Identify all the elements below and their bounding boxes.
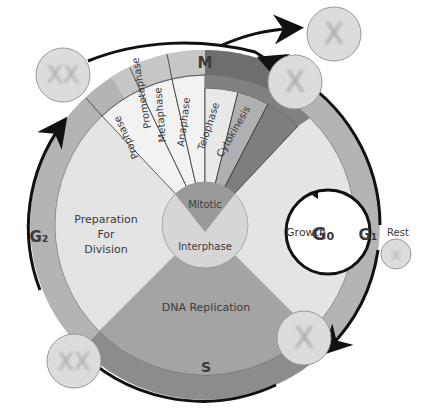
g1-sector-label: Growth xyxy=(286,226,326,239)
m-label: M xyxy=(198,54,213,72)
g2-sector-line1: Preparation xyxy=(74,213,138,226)
s-sector-label: DNA Replication xyxy=(162,301,251,314)
svg-text:X: X xyxy=(285,64,306,99)
svg-text:X: X xyxy=(324,16,345,51)
s-label: S xyxy=(201,359,211,375)
cell-cycle-diagram: XX X X X X XX M G₁ G₂ S G₀ Rest Preparat… xyxy=(0,0,439,408)
svg-text:X: X xyxy=(294,320,315,355)
g2-label: G₂ xyxy=(30,228,49,246)
cell-s-end: XX xyxy=(47,334,101,388)
center-circle xyxy=(162,182,248,268)
interphase-label: Interphase xyxy=(178,241,232,252)
g2-sector-line2: For xyxy=(97,228,115,241)
svg-text:X: X xyxy=(391,247,401,263)
svg-text:XX: XX xyxy=(47,61,80,89)
cell-dividing-top: XX xyxy=(36,48,90,102)
cell-daughter-1: X xyxy=(307,7,361,61)
cell-g0-rest: X xyxy=(381,239,411,269)
rest-label: Rest xyxy=(387,227,409,238)
cell-g1-end: X xyxy=(277,311,331,365)
g1-label: G₁ xyxy=(359,226,378,244)
mitotic-label: Mitotic xyxy=(188,199,222,210)
svg-text:XX: XX xyxy=(58,348,91,376)
g2-sector-line3: Division xyxy=(84,243,128,256)
cell-daughter-2: X xyxy=(268,55,322,109)
